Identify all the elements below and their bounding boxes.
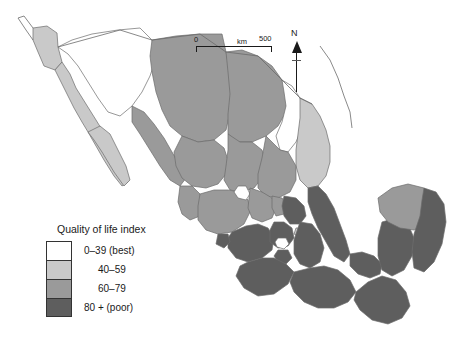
legend-label: 40–59 [98,265,126,275]
map-border-line [18,16,33,40]
legend-label: 0–39 (best) [84,246,135,256]
legend-swatch [46,279,72,298]
legend-title: Quality of life index [57,224,146,235]
north-arrow-crossbar [292,60,301,61]
legend-row: 40–59 [46,260,135,279]
map-state-region [88,126,130,186]
map-state-region [290,266,356,308]
legend-row: 60–79 [46,279,135,298]
legend-label: 80 + (poor) [84,303,133,313]
legend-row: 0–39 (best) [46,241,135,260]
north-arrow: N [288,30,306,92]
scalebar-unit-label: km [237,38,247,46]
map-state-region [236,258,294,296]
legend-label: 60–79 [98,284,126,294]
scalebar-tick-left [196,46,197,52]
legend-swatch [46,298,72,317]
north-label: N [291,29,298,38]
scalebar-zero-label: 0 [194,36,198,44]
map-state-region [282,196,306,224]
scalebar-tick-right [271,46,272,52]
map-state-region [350,252,382,278]
map-state-region [226,50,288,142]
map-state-region [275,238,289,249]
map-border-line [320,46,352,128]
legend-swatch [46,241,72,260]
map-state-region [33,26,62,70]
legend-row: 80 + (poor) [46,298,135,317]
scale-bar [196,46,272,53]
legend-entries: 0–39 (best)40–5960–7980 + (poor) [46,241,135,317]
map-state-region [296,98,330,188]
north-arrow-stem [296,52,297,92]
legend-swatch [46,260,72,279]
map-figure: 0 km 500 N Quality of life index 0–39 (b… [0,0,470,360]
scalebar-max-label: 500 [259,35,272,43]
scalebar-rule [196,46,272,47]
map-state-region [354,276,410,324]
